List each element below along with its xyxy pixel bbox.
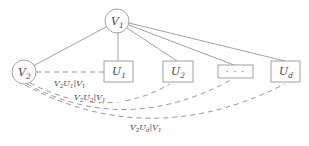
node-v2[interactable]: V2 xyxy=(12,60,36,84)
edge-label-v2ud: V2Ud|V1 xyxy=(128,120,176,133)
node-ud[interactable]: Ud xyxy=(271,61,300,82)
ellipsis-icon: · · · xyxy=(226,67,245,77)
dashed-edge-v2-ud xyxy=(25,84,285,118)
edge-v1-v2 xyxy=(33,27,106,66)
edge-label-v2u2: V2U2|V1 xyxy=(72,90,122,103)
node-u2[interactable]: U2 xyxy=(163,61,193,82)
edge-label-v2u2-text: V2U2|V1 xyxy=(74,93,106,103)
graph-diagram: V1 V2 U1 U2 · · · Ud xyxy=(0,0,309,146)
node-u1[interactable]: U1 xyxy=(104,61,133,82)
node-ellipsis[interactable]: · · · xyxy=(218,65,253,78)
tree-edge-group xyxy=(33,23,285,66)
diagram-canvas: V1 V2 U1 U2 · · · Ud xyxy=(0,0,309,146)
edge-v1-ud xyxy=(129,23,285,61)
edge-label-v2u1: V2U1|V1 xyxy=(52,76,100,89)
edge-label-v2u1-text: V2U1|V1 xyxy=(54,79,86,89)
edge-label-v2ud-text: V2Ud|V1 xyxy=(130,123,162,133)
node-v1[interactable]: V1 xyxy=(105,9,129,33)
